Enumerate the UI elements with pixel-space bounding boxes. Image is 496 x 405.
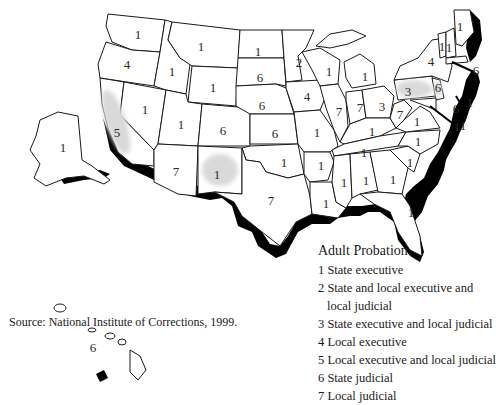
state-label-pennsylvania: 3 (405, 84, 412, 99)
state-label-montana: 1 (198, 39, 205, 54)
state-label-louisiana: 1 (323, 196, 330, 211)
state-label-maryland: 1 (460, 118, 467, 133)
state-label-new-jersey: 6 (435, 80, 442, 95)
state-label-hawaii: 6 (90, 340, 97, 355)
state-label-texas: 7 (268, 193, 275, 208)
state-label-arkansas: 1 (318, 158, 325, 173)
state-label-wisconsin: 1 (326, 64, 333, 79)
state-massachusetts (446, 56, 468, 64)
state-label-west-virginia: 7 (397, 107, 404, 122)
state-label-colorado: 6 (220, 123, 227, 138)
state-label-idaho: 1 (169, 64, 176, 79)
state-label-south-carolina: 1 (407, 155, 414, 170)
state-label-mississippi: 1 (341, 175, 348, 190)
state-label-vermont: 1 (439, 39, 446, 54)
state-label-kentucky: 1 (369, 124, 376, 139)
legend: Adult Probation 1 State executive 2 Stat… (318, 242, 496, 405)
state-label-ohio: 3 (379, 99, 386, 114)
state-label-kansas: 6 (272, 126, 279, 141)
state-label-virginia: 1 (414, 114, 421, 129)
state-label-missouri: 1 (314, 125, 321, 140)
state-label-utah: 1 (178, 117, 185, 132)
state-label-alabama: 1 (363, 173, 370, 188)
state-label-oklahoma: 1 (281, 155, 288, 170)
state-label-washington: 1 (135, 27, 142, 42)
state-label-new-york: 4 (428, 54, 435, 69)
state-label-florida: 1 (408, 205, 415, 220)
state-label-oregon: 4 (124, 57, 131, 72)
lake-superior (316, 30, 366, 48)
source-citation: Source: National Institute of Correction… (9, 315, 237, 330)
state-label-north-carolina: 1 (415, 134, 422, 149)
state-alaska (30, 112, 110, 186)
legend-item-1: 1 State executive (318, 261, 496, 279)
state-label-illinois: 7 (336, 104, 343, 119)
state-label-connecticut: 6 (453, 101, 460, 116)
state-label-georgia: 1 (390, 172, 397, 187)
state-label-minnesota: 2 (296, 55, 303, 70)
states (98, 10, 474, 256)
state-label-arizona: 7 (173, 164, 180, 179)
state-label-new-hampshire: 1 (446, 40, 453, 55)
state-michigan (344, 54, 376, 88)
state-label-alaska: 1 (60, 140, 67, 155)
state-label-tennessee: 1 (361, 145, 368, 160)
state-label-new-mexico: 1 (214, 167, 221, 182)
legend-item-6: 6 State judicial (318, 369, 496, 387)
state-label-iowa: 4 (304, 89, 311, 104)
state-label-michigan: 1 (362, 69, 369, 84)
legend-title: Adult Probation (318, 242, 496, 260)
state-label-indiana: 7 (357, 100, 364, 115)
state-label-maine: 1 (457, 19, 464, 34)
legend-item-2: 2 State and local executive and (318, 279, 496, 297)
legend-item-2-continuation: local judicial (318, 297, 496, 315)
state-label-nebraska: 6 (259, 98, 266, 113)
state-label-california: 5 (114, 125, 121, 140)
legend-item-5: 5 Local executive and local judicial (318, 351, 496, 369)
state-label-wyoming: 1 (210, 80, 217, 95)
shade-pennsylvania (396, 80, 432, 98)
legend-item-3: 3 State executive and local judicial (318, 315, 496, 333)
state-label-massachusetts: 6 (473, 63, 480, 78)
state-label-nevada: 1 (142, 102, 149, 117)
legend-item-7: 7 Local judicial (318, 387, 496, 405)
state-label-rhode-island: 1 (467, 95, 474, 110)
state-label-south-dakota: 6 (257, 70, 264, 85)
state-label-north-dakota: 1 (255, 44, 262, 59)
legend-item-4: 4 Local executive (318, 333, 496, 351)
